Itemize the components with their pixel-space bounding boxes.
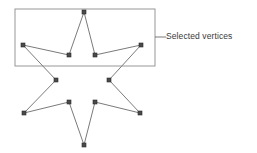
vertex-handle-left-point[interactable] (21, 43, 25, 47)
star-vertex-diagram (0, 0, 257, 153)
vertex-handle-lower-right-point[interactable] (138, 111, 142, 115)
vertex-handle-right-point[interactable] (139, 43, 143, 47)
vertex-handle-lower-right-inner[interactable] (93, 100, 97, 104)
selected-vertices-label: Selected vertices (166, 31, 232, 41)
vertex-handle-middle-left-inner[interactable] (54, 78, 58, 82)
vertex-handle-middle-right-inner[interactable] (107, 78, 111, 82)
vertex-handle-upper-left-inner[interactable] (67, 53, 71, 57)
vertex-handle-top-point[interactable] (82, 10, 86, 14)
vertex-handle-bottom-point[interactable] (82, 143, 86, 147)
diagram-canvas: Selected vertices (0, 0, 257, 153)
vertex-handle-upper-right-inner[interactable] (93, 53, 97, 57)
vertex-handle-layer (21, 10, 143, 147)
star-outline-path[interactable] (23, 12, 141, 145)
vertex-handle-lower-left-point[interactable] (22, 111, 26, 115)
vertex-handle-lower-left-inner[interactable] (67, 100, 71, 104)
